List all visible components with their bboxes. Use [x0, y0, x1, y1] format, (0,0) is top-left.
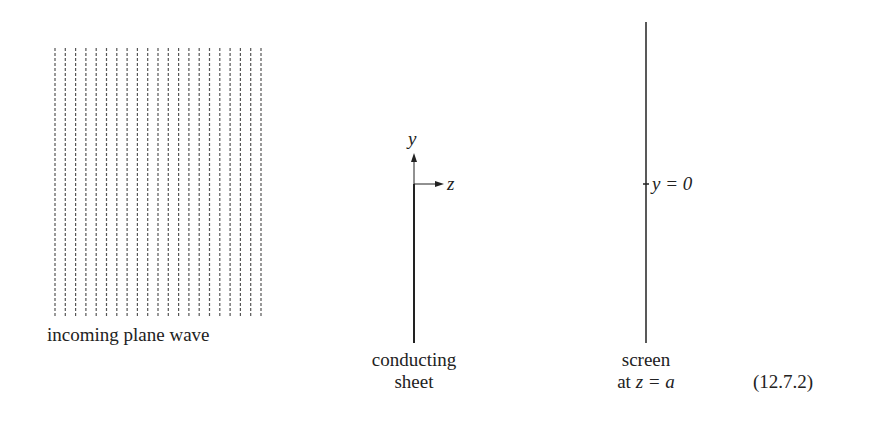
- screen-label-math: z = a: [636, 371, 675, 392]
- screen-label-line2: at z = a: [586, 371, 706, 393]
- y-axis-label: y: [408, 128, 416, 150]
- incoming-plane-wave-lines: [55, 48, 261, 318]
- screen-label: screen at z = a: [586, 349, 706, 393]
- sheet-label: conducting sheet: [354, 349, 474, 393]
- z-axis-label: z: [447, 173, 454, 195]
- screen-label-prefix: at: [617, 371, 635, 392]
- y-zero-label: y = 0: [652, 173, 692, 195]
- wave-label: incoming plane wave: [47, 324, 210, 346]
- sheet-label-line2: sheet: [354, 371, 474, 393]
- equation-number: (12.7.2): [753, 371, 813, 393]
- screen-label-line1: screen: [586, 349, 706, 371]
- sheet-label-line1: conducting: [354, 349, 474, 371]
- y-arrowhead-icon: [411, 153, 417, 162]
- z-arrowhead-icon: [435, 181, 444, 187]
